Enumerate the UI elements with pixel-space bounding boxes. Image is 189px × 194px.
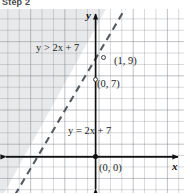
figure-screenshot: Step 2 y > 2x + 7 (1, 9) <box>0 0 189 194</box>
point-marker-0-7 <box>93 77 98 82</box>
step-heading: Step 2 <box>2 0 30 7</box>
equation-label: y = 2x + 7 <box>68 125 111 136</box>
point-label-0-0: (0, 0) <box>99 162 122 173</box>
point-label-0-7: (0, 7) <box>97 78 120 89</box>
inequality-label: y > 2x + 7 <box>36 42 79 53</box>
point-marker-0-0 <box>93 154 98 159</box>
point-label-1-9: (1, 9) <box>114 55 137 66</box>
axes-layer <box>0 9 184 193</box>
point-marker-1-9 <box>101 55 106 60</box>
graph-plate: y > 2x + 7 (1, 9) (0, 7) y = 2x + 7 (0, … <box>0 9 184 193</box>
x-axis-label: x <box>172 161 178 172</box>
y-axis-label: y <box>86 10 91 21</box>
